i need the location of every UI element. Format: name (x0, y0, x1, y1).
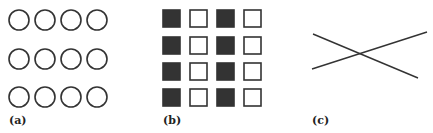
figure-canvas (0, 0, 433, 133)
circle (61, 87, 81, 107)
circle (87, 49, 107, 69)
panel-b-squares (163, 10, 261, 106)
circle (9, 10, 29, 30)
filled-square (217, 89, 234, 106)
circle (35, 49, 55, 69)
circle (9, 87, 29, 107)
filled-square (217, 63, 234, 80)
line-segment (312, 32, 427, 69)
open-square (190, 37, 207, 54)
circle (35, 10, 55, 30)
filled-square (163, 10, 180, 27)
panel-a-label: (a) (9, 114, 27, 127)
circle (61, 49, 81, 69)
circle (61, 10, 81, 30)
filled-square (217, 10, 234, 27)
open-square (244, 89, 261, 106)
open-square (190, 89, 207, 106)
open-square (244, 63, 261, 80)
circle (9, 49, 29, 69)
open-square (244, 37, 261, 54)
open-square (244, 10, 261, 27)
panel-c-label: (c) (312, 114, 329, 127)
filled-square (217, 37, 234, 54)
circle (35, 87, 55, 107)
panel-b-label: (b) (163, 114, 181, 127)
filled-square (163, 63, 180, 80)
open-square (190, 63, 207, 80)
circle (87, 10, 107, 30)
filled-square (163, 37, 180, 54)
filled-square (163, 89, 180, 106)
panel-c-crossing-lines (312, 32, 427, 78)
open-square (190, 10, 207, 27)
circle (87, 87, 107, 107)
panel-a-circles (9, 10, 107, 107)
